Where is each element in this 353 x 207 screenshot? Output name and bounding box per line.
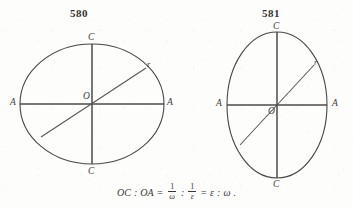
figure-580-drawing <box>20 44 164 164</box>
formula-frac1-numerator: 1 <box>168 183 176 193</box>
formula-epsilon: ε <box>209 187 215 198</box>
figure-581-drawing <box>227 32 327 178</box>
formula-frac1-denominator: ω <box>167 192 177 201</box>
label-581-right-vertex-a: A <box>332 99 338 109</box>
label-580-radius-r: r <box>147 60 150 69</box>
formula-colon-3: : <box>216 187 221 198</box>
formula-equals-1: = <box>156 187 165 198</box>
scanned-page: 580 581 A A C C O r A A <box>0 0 353 207</box>
formula-line: OC : OA = 1 ω : 1 ε = ε : ω . <box>0 183 353 201</box>
formula-oa: OA <box>139 187 154 198</box>
formula-equals-2: = <box>199 187 208 198</box>
formula-frac2-numerator: 1 <box>188 183 196 193</box>
label-580-bottom-vertex-c: C <box>88 167 94 177</box>
formula-fraction-one-over-omega: 1 ω <box>167 183 177 201</box>
label-581-left-vertex-a: A <box>216 99 222 109</box>
label-581-radius-r: r <box>314 58 317 67</box>
formula-colon-1: : <box>133 187 138 198</box>
label-580-top-vertex-c: C <box>88 33 94 43</box>
formula-expression: OC : OA = 1 ω : 1 ε = ε : ω . <box>116 183 237 201</box>
figures-drawing-layer <box>0 0 353 207</box>
label-580-right-vertex-a: A <box>167 98 173 108</box>
label-580-left-vertex-a: A <box>10 98 16 108</box>
ellipse-580-radius-line <box>41 68 146 137</box>
label-581-center-o: O <box>268 107 275 117</box>
label-581-top-vertex-c: C <box>273 22 279 32</box>
formula-omega: ω <box>222 187 231 198</box>
formula-oc: OC <box>116 187 132 198</box>
formula-frac2-denominator: ε <box>189 192 196 201</box>
label-580-center-o: O <box>83 92 90 102</box>
formula-period: . <box>232 187 237 198</box>
formula-fraction-one-over-epsilon: 1 ε <box>188 183 196 201</box>
formula-colon-2: : <box>180 187 185 198</box>
